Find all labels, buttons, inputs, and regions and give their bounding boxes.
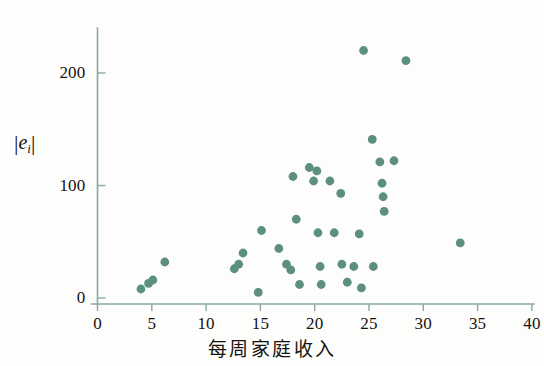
scatter-point	[359, 46, 368, 55]
scatter-point	[336, 189, 345, 198]
x-axis-tick-label: 20	[306, 314, 323, 334]
scatter-point	[274, 244, 283, 253]
x-axis-title: 每周家庭收入	[0, 334, 544, 361]
scatter-point	[369, 262, 378, 271]
scatter-plot-figure: 0510152025303540 0100200 每周家庭收入 |ei|	[0, 0, 544, 366]
scatter-point	[355, 229, 364, 238]
scatter-point	[254, 288, 263, 297]
scatter-point	[160, 258, 169, 267]
data-points-group	[137, 46, 465, 297]
scatter-point	[148, 276, 157, 285]
scatter-point	[239, 249, 248, 258]
y-axis-tick-label: 100	[0, 176, 86, 196]
scatter-point	[305, 163, 314, 172]
scatter-point	[330, 228, 339, 237]
x-axis-tick-label: 35	[469, 314, 486, 334]
scatter-point	[312, 166, 321, 175]
x-axis-tick-label: 15	[252, 314, 269, 334]
scatter-point	[380, 207, 389, 216]
y-axis-title: |ei|	[14, 132, 35, 155]
scatter-point	[375, 157, 384, 166]
scatter-point	[286, 265, 295, 274]
scatter-point	[257, 226, 266, 235]
scatter-point	[295, 280, 304, 289]
x-axis-tick-label: 25	[360, 314, 377, 334]
x-axis-tick-label: 10	[197, 314, 214, 334]
x-axis-tick-label: 30	[415, 314, 432, 334]
y-axis-title-symbol-letter: e	[18, 131, 27, 153]
y-axis-tick-label: 0	[0, 288, 86, 308]
scatter-point	[292, 215, 301, 224]
x-axis-ticks	[98, 304, 532, 311]
scatter-point	[316, 262, 325, 271]
scatter-point	[326, 177, 335, 186]
x-axis-tick-label: 5	[147, 314, 156, 334]
scatter-point	[289, 172, 298, 181]
scatter-point	[234, 260, 243, 269]
scatter-point	[456, 238, 465, 247]
scatter-point	[357, 283, 366, 292]
scatter-point	[402, 56, 411, 65]
scatter-point	[378, 179, 387, 188]
y-axis-title-bar-right: |	[31, 130, 35, 155]
scatter-point	[337, 260, 346, 269]
scatter-point	[349, 262, 358, 271]
scatter-point	[343, 278, 352, 287]
scatter-point	[317, 280, 326, 289]
scatter-point	[314, 228, 323, 237]
scatter-point	[137, 285, 146, 294]
scatter-point	[379, 192, 388, 201]
x-axis-tick-label: 40	[523, 314, 540, 334]
scatter-point	[368, 135, 377, 144]
scatter-point	[309, 177, 318, 186]
x-axis-tick-label: 0	[93, 314, 102, 334]
scatter-point	[390, 156, 399, 165]
y-axis-ticks	[98, 73, 106, 298]
y-axis-title-symbol: e	[18, 131, 27, 153]
y-axis-tick-label: 200	[0, 63, 86, 83]
